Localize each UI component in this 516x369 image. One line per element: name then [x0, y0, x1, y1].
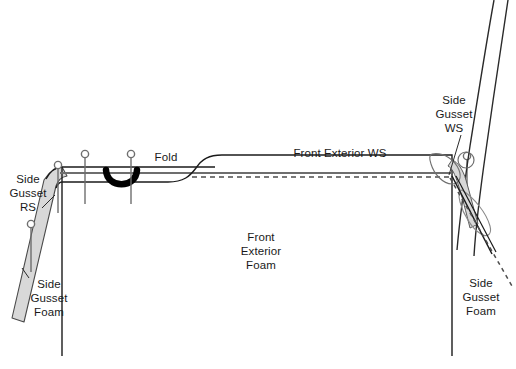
diagram-canvas: Side Gusset RS Side Gusset Foam Fold Fro… [0, 0, 516, 369]
label-fold: Fold [146, 150, 186, 164]
gusset-right-seam-edge-b [456, 176, 496, 252]
label-front-exterior-foam: Front Exterior Foam [224, 230, 298, 272]
side-gusset-right-group [430, 0, 512, 286]
label-side-gusset-foam-right: Side Gusset Foam [452, 276, 510, 318]
pin-marker [81, 150, 88, 204]
label-front-exterior-ws: Front Exterior WS [275, 146, 405, 160]
label-side-gusset-foam-left: Side Gusset Foam [18, 277, 80, 319]
label-side-gusset-ws: Side Gusset WS [425, 93, 483, 135]
label-side-gusset-rs: Side Gusset RS [0, 172, 56, 214]
